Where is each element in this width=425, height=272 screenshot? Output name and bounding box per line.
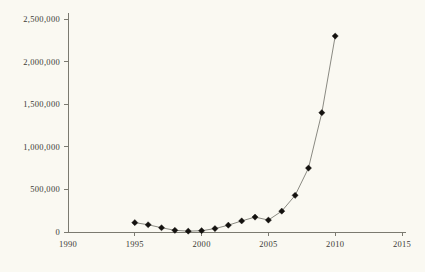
y-axis-tick-label: 500,000 xyxy=(30,184,60,194)
y-axis: 0500,0001,000,0001,500,0002,000,0002,500… xyxy=(23,13,68,237)
data-point-marker: 2009: 1,400,000 xyxy=(319,110,325,116)
data-point-marker: 1999: 10,000 xyxy=(185,228,191,234)
y-axis-tick-label: 2,500,000 xyxy=(23,14,60,24)
data-point-marker: 2002: 80,000 xyxy=(225,222,231,228)
data-point-marker: 1995: 110,000 xyxy=(132,220,138,226)
y-axis-tick-label: 0 xyxy=(55,227,60,237)
series-line xyxy=(135,36,335,231)
x-axis-tick-label: 2000 xyxy=(192,239,210,249)
y-axis-tick-label: 1,500,000 xyxy=(23,99,60,109)
y-axis-tick-label: 2,000,000 xyxy=(23,57,60,67)
data-point-marker: 1996: 85,000 xyxy=(145,222,151,228)
x-axis: 199019952000200520102015 xyxy=(59,232,411,249)
data-point-marker: 2000: 15,000 xyxy=(199,228,205,234)
line-chart: 0500,0001,000,0001,500,0002,000,0002,500… xyxy=(0,0,425,272)
x-axis-tick-label: 1990 xyxy=(59,239,77,249)
data-point-marker: 2008: 750,000 xyxy=(305,165,311,171)
data-series: 1995: 110,0001996: 85,0001997: 50,000199… xyxy=(132,33,339,234)
chart-screenshot: 0500,0001,000,0001,500,0002,000,0002,500… xyxy=(0,0,425,272)
data-point-marker: 2001: 40,000 xyxy=(212,225,218,231)
data-point-marker: 2004: 175,000 xyxy=(252,214,258,220)
y-axis-tick-label: 1,000,000 xyxy=(23,142,60,152)
data-point-marker: 2010: 2,300,000 xyxy=(332,33,338,39)
x-axis-tick-label: 2015 xyxy=(393,239,411,249)
x-axis-tick-label: 2005 xyxy=(259,239,277,249)
data-point-marker: 2005: 140,000 xyxy=(265,217,271,223)
x-axis-tick-label: 1995 xyxy=(126,239,144,249)
data-point-marker: 1997: 50,000 xyxy=(158,225,164,231)
x-axis-tick-label: 2010 xyxy=(326,239,344,249)
data-point-marker: 2003: 130,000 xyxy=(239,218,245,224)
